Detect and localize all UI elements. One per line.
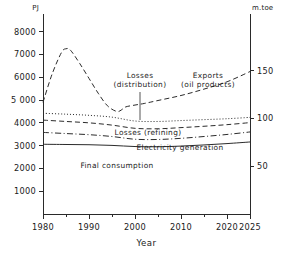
annotation-sublabel-losses-distribution: (distribution) <box>114 80 167 89</box>
annotation-label-electricity-generation: Electricity generation <box>137 143 224 152</box>
y-tick-label-left: 4000 <box>14 118 36 128</box>
series-line-losses-distribution <box>43 113 250 121</box>
y-tick-label-right: 100 <box>257 113 274 123</box>
y-tick-label-left: 5 000 <box>11 95 36 105</box>
annotation-sublabel-exports-oil-products: (oil products) <box>181 80 235 89</box>
y-axis-unit-label: PJ <box>32 4 39 12</box>
y-tick-label-right: 150 <box>257 66 274 76</box>
x-tick-label: 1990 <box>78 222 100 232</box>
y-tick-label-left: 3000 <box>14 141 36 151</box>
chart-canvas: 10002000300040005 000600070008000PJ50100… <box>0 0 282 254</box>
annotation-label-exports-oil-products: Exports <box>193 71 224 80</box>
y-tick-label-left: 2000 <box>14 163 36 173</box>
y-tick-label-right: 50 <box>257 161 268 171</box>
y-tick-label-left: 6000 <box>14 72 36 82</box>
x-tick-label: 2000 <box>124 222 146 232</box>
annotation-label-losses-distribution: Losses <box>127 71 154 80</box>
x-tick-label: 2025 <box>239 222 261 232</box>
y-tick-label-left: 7000 <box>14 49 36 59</box>
energy-projection-chart: 10002000300040005 000600070008000PJ50100… <box>0 0 282 254</box>
y-tick-label-left: 1000 <box>14 186 36 196</box>
x-tick-label: 2020 <box>216 222 238 232</box>
x-axis-title: Year <box>135 238 156 248</box>
x-tick-label: 2010 <box>170 222 192 232</box>
y-tick-label-left: 8000 <box>14 27 36 37</box>
annotation-label-losses-refining: Losses (refining) <box>115 128 182 137</box>
x-tick-label: 1980 <box>32 222 54 232</box>
annotation-label-final-consumption: Final consumption <box>80 161 153 170</box>
y2-axis-unit-label: m.toe <box>252 4 273 12</box>
